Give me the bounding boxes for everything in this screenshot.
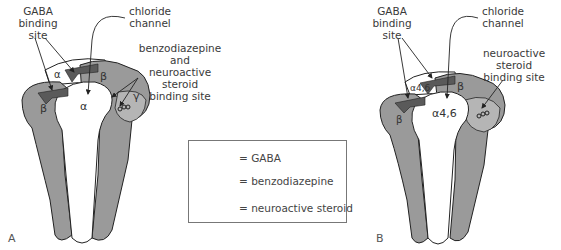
panel-label-a: A — [8, 232, 16, 245]
panel-label-b: B — [376, 232, 384, 245]
svg-text:β: β — [396, 114, 402, 125]
svg-text:β: β — [40, 102, 47, 115]
svg-text:α: α — [80, 100, 87, 113]
legend-item-neuroactive-steroid: = neuroactive steroid — [189, 194, 346, 218]
legend-item-gaba: = GABA — [189, 147, 346, 171]
svg-text:α4,6: α4,6 — [410, 83, 431, 93]
steroid-site-label-b: neuroactive steroid binding site — [468, 47, 560, 83]
svg-text:α4,6: α4,6 — [432, 107, 457, 120]
bzd-steroid-site-label-a: benzodiazepine and neuroactive steroid b… — [130, 42, 230, 102]
legend-label-gaba: = GABA — [239, 152, 281, 164]
subunit-alpha-back: α — [54, 69, 61, 80]
svg-text:β: β — [457, 80, 464, 93]
gaba-binding-site-label-b: GABA binding site — [362, 5, 422, 41]
legend-label-neuroactive-steroid: = neuroactive steroid — [239, 202, 353, 214]
legend-label-benzodiazepine: = benzodiazepine — [239, 175, 334, 187]
legend: = GABA = benzodiazepine = neuroactive st… — [188, 140, 347, 223]
chloride-channel-label-a: chloride channel — [125, 5, 175, 29]
gaba-binding-site-label-a: GABA binding site — [8, 5, 68, 41]
svg-text:β: β — [100, 70, 107, 83]
chloride-channel-label-b: chloride channel — [478, 5, 528, 29]
legend-item-benzodiazepine: = benzodiazepine — [189, 170, 346, 194]
